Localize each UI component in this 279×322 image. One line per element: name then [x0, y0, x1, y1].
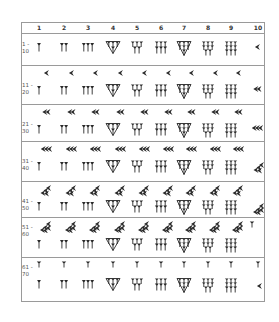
tens-sign-icon: [161, 184, 173, 197]
unit-sign-icon: [152, 84, 170, 100]
unit-sign-icon: [152, 160, 170, 176]
unit-sign-icon: [55, 200, 73, 216]
numeral-row: 31 -40: [22, 142, 264, 182]
unit-sign-icon: [199, 84, 217, 100]
tens-sign-icon: [43, 69, 50, 77]
tens-sign-icon: [138, 145, 152, 153]
sixty-sign-icon: [61, 261, 67, 268]
unit-sign-icon: [222, 238, 240, 254]
unit-sign-icon: [152, 278, 170, 294]
unit-sign-icon: [199, 238, 217, 254]
next-ten-sign-icon: [254, 43, 261, 51]
unit-sign-icon: [79, 84, 97, 100]
tens-sign-icon: [140, 108, 150, 116]
unit-sign-icon: [55, 278, 73, 294]
tens-sign-icon: [68, 69, 75, 77]
next-ten-sign-icon: [252, 161, 264, 174]
unit-sign-icon: [128, 41, 146, 57]
unit-sign-icon: [30, 123, 48, 139]
unit-sign-icon: [128, 160, 146, 176]
tens-sign-icon: [209, 145, 223, 153]
tens-sign-icon: [141, 69, 148, 77]
tens-sign-icon: [161, 220, 173, 233]
tens-sign-icon: [91, 108, 101, 116]
tens-sign-icon: [39, 220, 51, 233]
column-header: 5: [135, 23, 139, 33]
tens-sign-icon: [162, 145, 176, 153]
tens-sign-icon: [67, 108, 77, 116]
column-header: 10: [254, 23, 262, 33]
next-ten-sign-icon: [252, 202, 264, 215]
unit-sign-icon: [199, 200, 217, 216]
tens-sign-icon: [92, 69, 99, 77]
tens-sign-icon: [114, 145, 128, 153]
sixty-sign-icon: [134, 261, 140, 268]
sixty-sign-icon: [158, 261, 164, 268]
tens-sign-icon: [184, 184, 196, 197]
next-ten-sign-icon: [255, 261, 261, 268]
unit-sign-icon: [222, 160, 240, 176]
unit-sign-icon: [199, 123, 217, 139]
unit-sign-icon: [104, 41, 122, 57]
sixty-sign-icon: [205, 261, 211, 268]
unit-sign-icon: [199, 41, 217, 57]
sixty-sign-icon: [110, 261, 116, 268]
tens-sign-icon: [88, 220, 100, 233]
numeral-row: 61 -70: [22, 258, 264, 303]
column-header: 4: [111, 23, 115, 33]
next-ten-sign-icon: [253, 85, 263, 93]
unit-sign-icon: [79, 238, 97, 254]
unit-sign-icon: [55, 84, 73, 100]
unit-sign-icon: [79, 160, 97, 176]
unit-sign-icon: [175, 84, 193, 100]
unit-sign-icon: [30, 84, 48, 100]
tens-sign-icon: [116, 108, 126, 116]
tens-sign-icon: [64, 220, 76, 233]
column-header: 6: [159, 23, 163, 33]
unit-sign-icon: [30, 41, 48, 57]
tens-sign-icon: [64, 184, 76, 197]
unit-sign-icon: [175, 160, 193, 176]
tens-sign-icon: [185, 145, 199, 153]
unit-sign-icon: [128, 84, 146, 100]
unit-sign-icon: [79, 200, 97, 216]
unit-sign-icon: [175, 238, 193, 254]
unit-sign-icon: [128, 238, 146, 254]
tens-sign-icon: [117, 69, 124, 77]
unit-sign-icon: [222, 84, 240, 100]
unit-sign-icon: [55, 238, 73, 254]
tens-sign-icon: [137, 220, 149, 233]
unit-sign-icon: [55, 41, 73, 57]
tens-sign-icon: [137, 184, 149, 197]
unit-sign-icon: [79, 123, 97, 139]
unit-sign-icon: [30, 200, 48, 216]
unit-sign-icon: [104, 238, 122, 254]
next-ten-sign-icon: [249, 221, 255, 228]
column-header: 3: [86, 23, 90, 33]
tens-sign-icon: [88, 184, 100, 197]
tens-sign-icon: [113, 220, 125, 233]
unit-sign-icon: [152, 238, 170, 254]
numeral-row: 41 -50: [22, 182, 264, 218]
unit-sign-icon: [104, 123, 122, 139]
unit-sign-icon: [152, 41, 170, 57]
numeral-row: 1 -10: [22, 33, 264, 66]
cuneiform-numeral-table: 12345678910 1 -1011 -2021 -3031 -4041 -5…: [21, 22, 265, 302]
column-header: 1: [37, 23, 41, 33]
unit-sign-icon: [222, 200, 240, 216]
column-header: 8: [206, 23, 210, 33]
tens-sign-icon: [211, 108, 221, 116]
tens-sign-icon: [188, 69, 195, 77]
tens-sign-icon: [212, 69, 219, 77]
tens-sign-icon: [42, 108, 52, 116]
unit-sign-icon: [152, 123, 170, 139]
unit-sign-icon: [30, 160, 48, 176]
row-label: 51 -60: [22, 224, 36, 238]
unit-sign-icon: [55, 160, 73, 176]
column-header: 9: [229, 23, 233, 33]
tens-sign-icon: [39, 184, 51, 197]
column-header: 2: [62, 23, 66, 33]
numeral-row: 21 -30: [22, 105, 264, 142]
sixty-sign-icon: [228, 261, 234, 268]
tens-sign-icon: [89, 145, 103, 153]
